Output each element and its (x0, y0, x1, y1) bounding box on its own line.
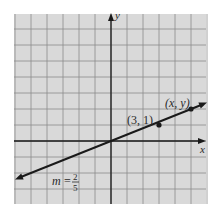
slope-denominator: 5 (73, 183, 78, 193)
coordinate-plane: x y (3, 1) (x, y) m = 2 5 (0, 0, 221, 218)
y-axis-label: y (114, 9, 120, 21)
slope-equals: = (64, 174, 71, 188)
point-label-x-y: (x, y) (165, 96, 190, 110)
point-label-3-1: (3, 1) (127, 113, 153, 127)
slope-numerator: 2 (73, 172, 78, 182)
x-axis-label: x (199, 143, 205, 155)
slope-m: m (52, 174, 61, 188)
point-3-1 (156, 122, 161, 127)
